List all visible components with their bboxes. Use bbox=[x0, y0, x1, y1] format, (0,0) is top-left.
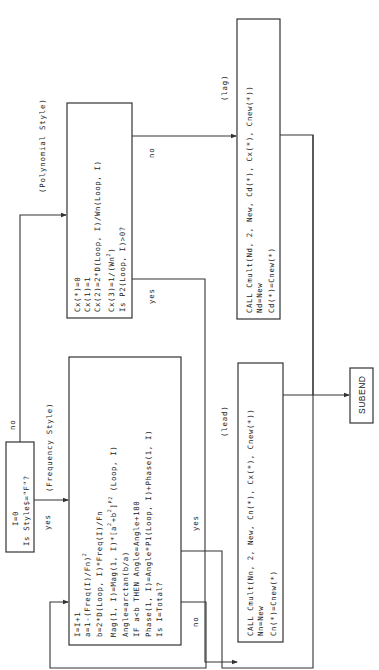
lag-line-2: Nd=New bbox=[255, 283, 264, 313]
lag-line-1: CALL Cmult(Nd, 2, New, Cd(*), Cx(*), Cne… bbox=[245, 86, 254, 313]
lead-line-1: CALL Cmult(Nn, 2, New, Cn(*), Cx(*), Cne… bbox=[246, 409, 255, 636]
label-polynomial-style: (Polynomial Style) bbox=[38, 99, 47, 194]
label-start-no: no bbox=[8, 420, 17, 431]
lag-box: CALL Cmult(Nd, 2, New, Cd(*), Cx(*), Cne… bbox=[237, 19, 280, 319]
start-line-2: Is Style$="F"? bbox=[22, 475, 31, 546]
flowchart: I=0 Is Style$="F"? no yes (Frequency Sty… bbox=[0, 0, 379, 670]
subend-box: SUBEND bbox=[350, 368, 373, 423]
lead-line-3: Cn(*)=Cnew(*) bbox=[269, 570, 278, 636]
start-decision-box: I=0 Is Style$="F"? bbox=[6, 442, 34, 552]
poly-line-2: Cx(1)=1 bbox=[83, 277, 92, 312]
label-poly-yes: yes bbox=[147, 288, 156, 304]
freq-line-8: Is I=Total? bbox=[155, 581, 164, 637]
lag-line-3: Cd(*)=Cnew(*) bbox=[267, 247, 276, 313]
poly-line-4: Cx(3)=1/(Wn2) bbox=[105, 248, 116, 312]
start-line-1: I=0 bbox=[11, 511, 20, 526]
freq-line-1: I=I+1 bbox=[73, 612, 82, 637]
edge-lag-out bbox=[280, 135, 313, 395]
label-lag: (lag) bbox=[220, 75, 229, 101]
label-poly-no: no bbox=[147, 148, 156, 159]
polynomial-style-box: Cx(*)=0 Cx(1)=1 Cx(2)=2*D(Loop, I)/Wn(Lo… bbox=[67, 103, 132, 318]
poly-line-3: Cx(2)=2*D(Loop, I)/Wn(Loop, I) bbox=[93, 161, 102, 313]
freq-line-6: IF a<b THEN Angle=Angle+180 bbox=[132, 501, 141, 637]
edge-start-no bbox=[20, 215, 66, 442]
lead-box: CALL Cmult(Nn, 2, New, Cn(*), Cx(*), Cne… bbox=[238, 363, 283, 642]
label-freq-yes: yes bbox=[191, 515, 200, 531]
subend-label: SUBEND bbox=[357, 376, 367, 414]
freq-line-5: Angle=arctan(b/a) bbox=[121, 551, 130, 637]
frequency-style-box: I=I+1 a=1-(Freq(I)/Fn)2 b=2*D(Loop, I)*F… bbox=[69, 357, 181, 645]
poly-line-5: Is P2(Loop, I)>0? bbox=[118, 226, 127, 312]
lead-line-2: Nn=New bbox=[256, 606, 265, 636]
label-frequency-style: (Frequency Style) bbox=[45, 403, 54, 492]
poly-line-1: Cx(*)=0 bbox=[73, 277, 82, 312]
freq-line-2: a=1-(Freq(I)/Fn)2 bbox=[81, 553, 92, 637]
label-freq-no: no bbox=[191, 617, 200, 628]
freq-line-7: Phase(1, I)=Angle*P1(Loop, I)+Phase(1, I… bbox=[144, 430, 153, 637]
freq-line-3: b=2*D(Loop, I)*Freq(I)/Fn bbox=[95, 511, 104, 637]
label-start-yes: yes bbox=[43, 514, 52, 530]
label-lead: (lead) bbox=[220, 406, 229, 438]
